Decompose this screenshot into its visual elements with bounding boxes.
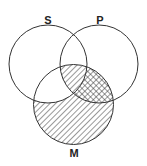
label-p: P bbox=[96, 14, 103, 26]
label-s: S bbox=[44, 14, 51, 26]
venn-diagram: S P M bbox=[0, 0, 147, 166]
label-m: M bbox=[69, 147, 78, 159]
